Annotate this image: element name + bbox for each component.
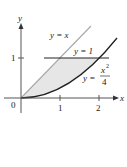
y-axis-label: y xyxy=(17,13,22,23)
label-y-equals-x: y = x xyxy=(49,30,69,40)
x-axis-arrow-icon xyxy=(113,96,119,101)
y-axis-arrow-icon xyxy=(19,23,24,29)
y-tick-label-1: 1 xyxy=(11,53,16,63)
label-parabola-denominator: 4 xyxy=(102,77,107,87)
x-tick-label-2: 2 xyxy=(96,103,101,113)
label-y-equals-1: y = 1 xyxy=(73,46,93,56)
x-tick-label-1: 1 xyxy=(58,103,63,113)
region-diagram: y x 0 1 2 1 y = x y = 1 y = x 2 4 xyxy=(0,0,127,167)
label-parabola-numerator: x xyxy=(100,65,105,75)
origin-label: 0 xyxy=(11,100,16,110)
x-axis-label: x xyxy=(119,93,124,103)
label-parabola-exponent: 2 xyxy=(106,63,109,69)
label-parabola-prefix: y = xyxy=(82,73,95,83)
